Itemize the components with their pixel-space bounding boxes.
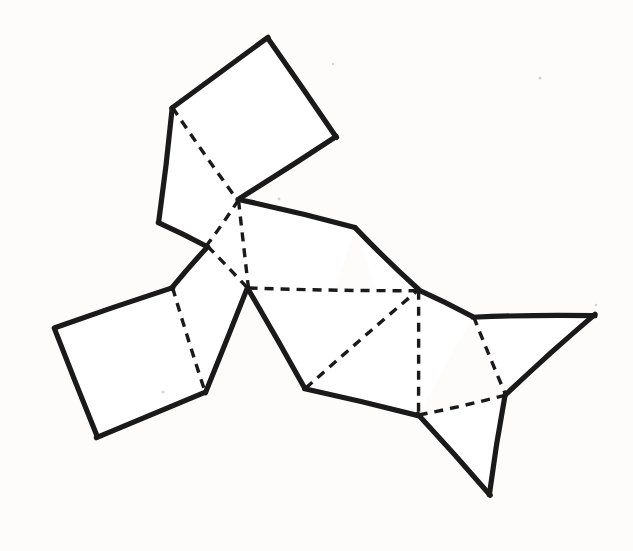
paper-speck-0 [538, 76, 541, 79]
paper-speck-3 [162, 391, 165, 394]
paper-speck-1 [278, 198, 281, 201]
paper-speck-2 [595, 304, 598, 307]
polyhedron-net-figure [0, 0, 633, 551]
drawing-canvas [0, 0, 633, 551]
dart-top-edge [473, 315, 595, 317]
paper-speck-4 [332, 63, 334, 65]
